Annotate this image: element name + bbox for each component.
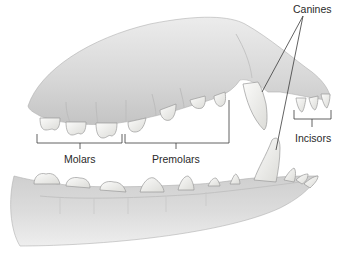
dog-teeth-diagram: Canines Molars Premolars Incisors xyxy=(0,0,341,257)
jaw-illustration xyxy=(0,0,341,257)
lower-premolar-1 xyxy=(140,178,164,192)
upper-molar-3 xyxy=(96,123,117,138)
premolars-label: Premolars xyxy=(152,154,200,165)
lower-molar-2 xyxy=(66,177,90,188)
lower-molar-3 xyxy=(100,181,126,192)
lower-canine xyxy=(254,138,280,182)
incisors-label: Incisors xyxy=(295,133,331,144)
lower-molar-1 xyxy=(34,173,60,184)
upper-molar-2 xyxy=(66,122,86,135)
upper-incisor-1 xyxy=(296,98,306,112)
lower-jaw xyxy=(11,176,318,246)
upper-molar-1 xyxy=(40,118,60,130)
molars-label: Molars xyxy=(64,154,96,165)
lower-incisor-1 xyxy=(284,168,296,182)
upper-incisor-3 xyxy=(321,94,330,108)
canines-label: Canines xyxy=(293,4,332,15)
upper-incisor-2 xyxy=(309,96,318,110)
lower-premolar-4 xyxy=(230,174,240,184)
lower-premolar-3 xyxy=(208,178,220,186)
incisors-bracket xyxy=(294,110,331,119)
lower-premolar-2 xyxy=(178,176,194,190)
